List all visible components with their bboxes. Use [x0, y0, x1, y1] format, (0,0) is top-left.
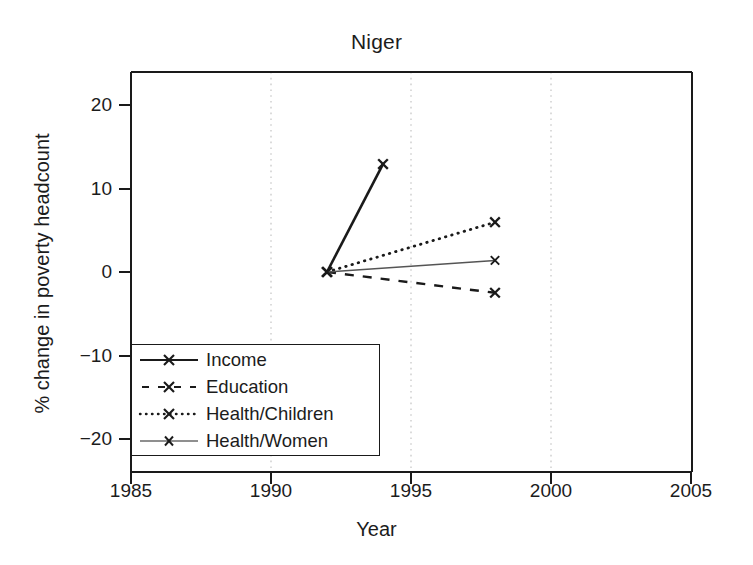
legend-item-health-children: Health/Children — [132, 400, 379, 427]
legend-item-education: Education — [132, 373, 379, 400]
data-point-marker — [378, 159, 388, 169]
legend-sample-income — [132, 349, 206, 371]
legend-label: Health/Children — [206, 403, 334, 425]
legend: Income Education — [131, 344, 380, 456]
series-income — [322, 159, 388, 276]
legend-label: Income — [206, 349, 267, 371]
legend-sample-health-women — [132, 430, 206, 452]
data-series-layer — [322, 159, 500, 297]
legend-item-health-women: Health/Women — [132, 427, 379, 454]
legend-label: Health/Women — [206, 430, 328, 452]
legend-item-income: Income — [132, 346, 379, 373]
legend-sample-education — [132, 376, 206, 398]
plot-area — [0, 0, 753, 565]
legend-label: Education — [206, 376, 288, 398]
chart-figure: Niger % change in poverty headcount Year… — [0, 0, 753, 565]
legend-sample-health-children — [132, 403, 206, 425]
data-point-marker — [490, 217, 500, 227]
